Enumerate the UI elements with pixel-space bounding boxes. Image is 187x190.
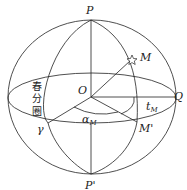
celestial-sphere-diagram: P P' O M M' Q γ 春 分 圈 αM tM (0, 0, 187, 190)
line-O-Mprime (91, 97, 137, 122)
label-quan: 圈 (32, 106, 42, 117)
star-icon (127, 55, 137, 65)
equinoctial-colure-arc (43, 20, 91, 174)
label-O: O (78, 84, 87, 97)
label-M-prime: M' (138, 122, 153, 135)
line-O-M (91, 60, 131, 97)
label-chun: 春 (32, 81, 42, 92)
label-fen: 分 (32, 93, 42, 104)
label-P-prime: P' (84, 179, 95, 190)
label-alpha: αM (82, 113, 97, 127)
label-gamma: γ (37, 123, 44, 136)
label-Q: Q (174, 90, 183, 103)
label-t: tM (146, 100, 158, 114)
label-M: M (139, 51, 152, 64)
hour-angle-arc (121, 97, 134, 114)
label-P: P (85, 4, 94, 17)
